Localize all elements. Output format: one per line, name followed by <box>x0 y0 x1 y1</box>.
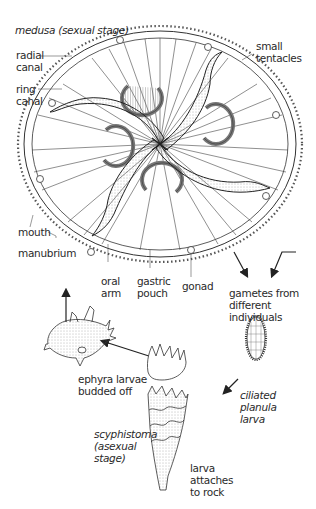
label-small-tentacles-line2: tentacles <box>256 52 302 64</box>
label-planula-line3: larva <box>240 413 265 425</box>
label-scyphistoma-line3: stage) <box>94 452 125 464</box>
label-attach-line1: larva <box>190 462 215 474</box>
label-scyphistoma-line2: (asexual <box>94 440 136 452</box>
label-oral-arm-line2: arm <box>101 287 121 299</box>
label-manubrium: manubrium <box>18 247 76 259</box>
label-planula-line2: planula <box>240 401 277 413</box>
label-attach-line3: to rock <box>190 486 224 498</box>
label-radial-canal-line1: radial <box>16 49 44 61</box>
label-medusa: medusa (sexual stage) <box>15 24 129 36</box>
label-attach-line2: attaches <box>190 474 233 486</box>
label-oral-arm-line1: oral <box>101 275 120 287</box>
label-scyphistoma-line1: scyphistoma <box>94 428 157 440</box>
label-gastric-pouch-line2: pouch <box>137 287 168 299</box>
jellyfish-life-cycle-diagram: medusa (sexual stage) radial canal ring … <box>0 0 316 509</box>
label-radial-canal-line2: canal <box>16 61 43 73</box>
label-mouth: mouth <box>18 226 51 238</box>
ephyra-larva <box>147 344 186 380</box>
young-medusa <box>44 306 116 366</box>
label-planula-line1: ciliated <box>240 389 276 401</box>
label-small-tentacles-line1: small <box>256 40 282 52</box>
label-gametes-line2: different <box>229 299 271 311</box>
label-gastric-pouch-line1: gastric <box>137 275 171 287</box>
label-gametes-line1: gametes from <box>229 287 299 299</box>
label-gametes-line3: individuals <box>229 311 282 323</box>
label-ring-canal-line1: ring <box>16 83 35 95</box>
label-ephyra-line2: budded off <box>78 385 132 397</box>
label-ephyra-line1: ephyra larvae <box>78 373 147 385</box>
label-ring-canal-line2: canal <box>16 95 43 107</box>
label-gonad: gonad <box>182 280 213 292</box>
